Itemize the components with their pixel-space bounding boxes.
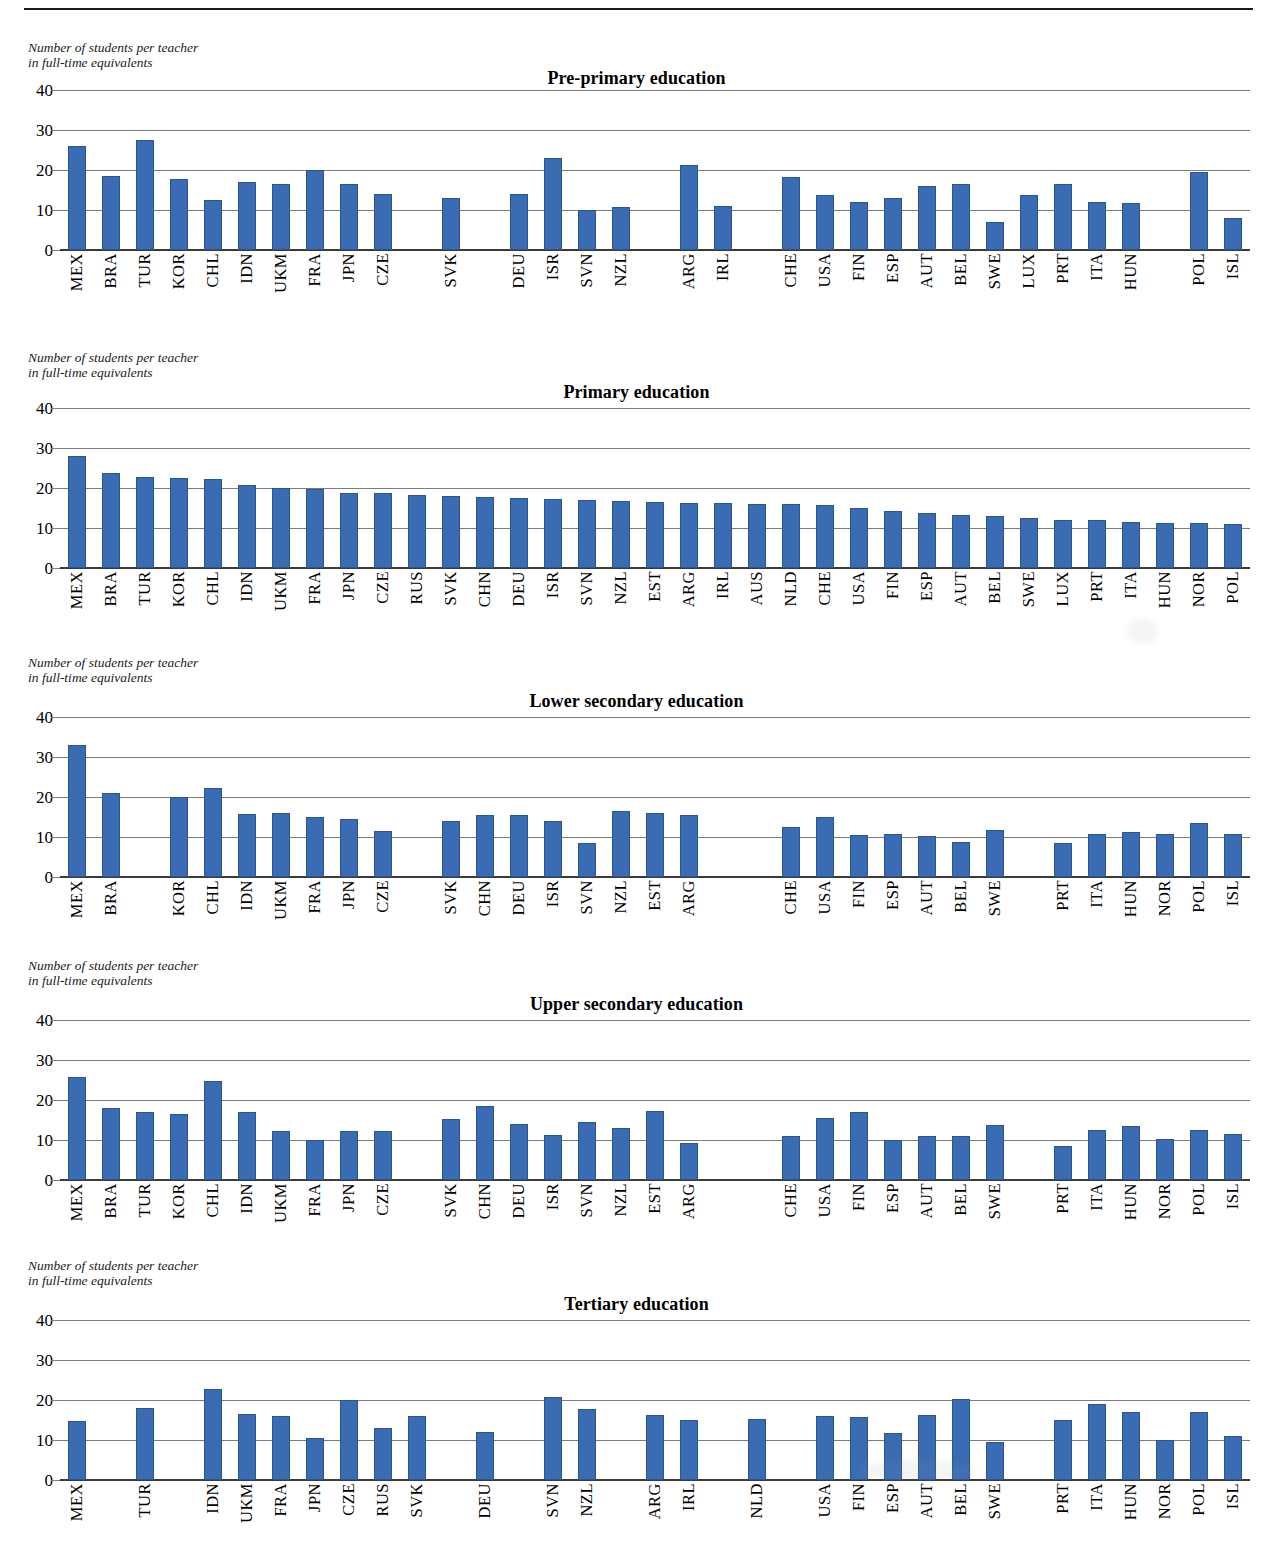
bar[interactable] xyxy=(714,503,732,568)
bar[interactable] xyxy=(1054,184,1072,250)
bar[interactable] xyxy=(1054,1420,1072,1480)
bar[interactable] xyxy=(918,1136,936,1180)
bar[interactable] xyxy=(1224,1134,1242,1180)
bar[interactable] xyxy=(204,1389,222,1480)
bar[interactable] xyxy=(476,1432,494,1480)
bar[interactable] xyxy=(782,177,800,250)
bar[interactable] xyxy=(748,1419,766,1480)
bar[interactable] xyxy=(102,1108,120,1180)
bar[interactable] xyxy=(578,1122,596,1180)
bar[interactable] xyxy=(238,182,256,250)
bar[interactable] xyxy=(884,834,902,877)
bar[interactable] xyxy=(170,797,188,877)
bar[interactable] xyxy=(442,1119,460,1180)
bar[interactable] xyxy=(986,1125,1004,1180)
bar[interactable] xyxy=(1156,834,1174,877)
bar[interactable] xyxy=(374,493,392,568)
bar[interactable] xyxy=(136,1112,154,1180)
bar[interactable] xyxy=(68,1421,86,1480)
bar[interactable] xyxy=(136,1408,154,1480)
bar[interactable] xyxy=(1020,518,1038,568)
bar[interactable] xyxy=(816,1118,834,1180)
bar[interactable] xyxy=(1088,834,1106,877)
bar[interactable] xyxy=(1156,523,1174,568)
bar[interactable] xyxy=(1122,203,1140,250)
bar[interactable] xyxy=(68,1077,86,1180)
bar[interactable] xyxy=(170,179,188,250)
bar[interactable] xyxy=(816,1416,834,1480)
bar[interactable] xyxy=(272,1416,290,1480)
bar[interactable] xyxy=(612,1128,630,1180)
bar[interactable] xyxy=(680,1143,698,1180)
bar[interactable] xyxy=(578,843,596,877)
bar[interactable] xyxy=(782,827,800,877)
bar[interactable] xyxy=(510,815,528,877)
bar[interactable] xyxy=(1054,1146,1072,1180)
bar[interactable] xyxy=(986,1442,1004,1480)
bar[interactable] xyxy=(918,186,936,250)
bar[interactable] xyxy=(238,1414,256,1480)
bar[interactable] xyxy=(646,813,664,877)
bar[interactable] xyxy=(102,176,120,250)
bar[interactable] xyxy=(272,1131,290,1180)
bar[interactable] xyxy=(578,210,596,250)
bar[interactable] xyxy=(204,200,222,250)
bar[interactable] xyxy=(986,830,1004,877)
bar[interactable] xyxy=(544,499,562,568)
bar[interactable] xyxy=(816,505,834,568)
bar[interactable] xyxy=(1122,832,1140,877)
bar[interactable] xyxy=(1122,1412,1140,1480)
bar[interactable] xyxy=(1088,202,1106,250)
bar[interactable] xyxy=(952,1136,970,1180)
bar[interactable] xyxy=(680,815,698,877)
bar[interactable] xyxy=(340,184,358,250)
bar[interactable] xyxy=(1224,834,1242,877)
bar[interactable] xyxy=(816,817,834,877)
bar[interactable] xyxy=(374,831,392,877)
bar[interactable] xyxy=(1190,823,1208,877)
bar[interactable] xyxy=(204,1081,222,1180)
bar[interactable] xyxy=(544,1135,562,1180)
bar[interactable] xyxy=(714,206,732,250)
bar[interactable] xyxy=(1190,172,1208,250)
bar[interactable] xyxy=(544,1397,562,1480)
bar[interactable] xyxy=(408,1416,426,1480)
bar[interactable] xyxy=(68,745,86,877)
bar[interactable] xyxy=(1088,1404,1106,1480)
bar[interactable] xyxy=(272,813,290,877)
bar[interactable] xyxy=(510,194,528,250)
bar[interactable] xyxy=(306,170,324,250)
bar[interactable] xyxy=(306,1140,324,1180)
bar[interactable] xyxy=(578,1409,596,1480)
bar[interactable] xyxy=(170,478,188,568)
bar[interactable] xyxy=(612,501,630,568)
bar[interactable] xyxy=(544,158,562,250)
bar[interactable] xyxy=(1122,522,1140,568)
bar[interactable] xyxy=(1156,1139,1174,1180)
bar[interactable] xyxy=(510,1124,528,1180)
bar[interactable] xyxy=(748,504,766,568)
bar[interactable] xyxy=(238,485,256,568)
bar[interactable] xyxy=(850,835,868,877)
bar[interactable] xyxy=(850,1112,868,1180)
bar[interactable] xyxy=(442,496,460,568)
bar[interactable] xyxy=(374,1428,392,1480)
bar[interactable] xyxy=(952,184,970,250)
bar[interactable] xyxy=(612,207,630,250)
bar[interactable] xyxy=(340,819,358,877)
bar[interactable] xyxy=(1190,523,1208,568)
bar[interactable] xyxy=(306,817,324,877)
bar[interactable] xyxy=(952,515,970,568)
bar[interactable] xyxy=(680,503,698,568)
bar[interactable] xyxy=(340,1400,358,1480)
bar[interactable] xyxy=(272,488,290,568)
bar[interactable] xyxy=(476,1106,494,1180)
bar[interactable] xyxy=(340,493,358,568)
bar[interactable] xyxy=(1224,218,1242,250)
bar[interactable] xyxy=(578,500,596,568)
bar[interactable] xyxy=(170,1114,188,1180)
bar[interactable] xyxy=(1020,195,1038,250)
bar[interactable] xyxy=(986,222,1004,250)
bar[interactable] xyxy=(1224,524,1242,568)
bar[interactable] xyxy=(306,489,324,568)
